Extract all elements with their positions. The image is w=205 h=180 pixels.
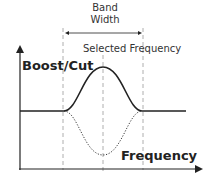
x-axis-arrow-icon <box>195 165 203 173</box>
band-width-line1: Band <box>70 2 140 14</box>
y-axis-label: Boost/Cut <box>22 58 93 73</box>
eq-band-diagram: Band Width Selected Frequency Boost/Cut … <box>0 0 205 180</box>
band-width-label: Band Width <box>70 2 140 26</box>
bandwidth-arrow <box>65 31 142 35</box>
x-axis <box>19 165 203 173</box>
selected-frequency-label: Selected Frequency <box>83 43 181 54</box>
y-axis-arrow-icon <box>16 45 24 53</box>
band-width-line2: Width <box>70 14 140 26</box>
x-axis-label: Frequency <box>121 148 197 163</box>
